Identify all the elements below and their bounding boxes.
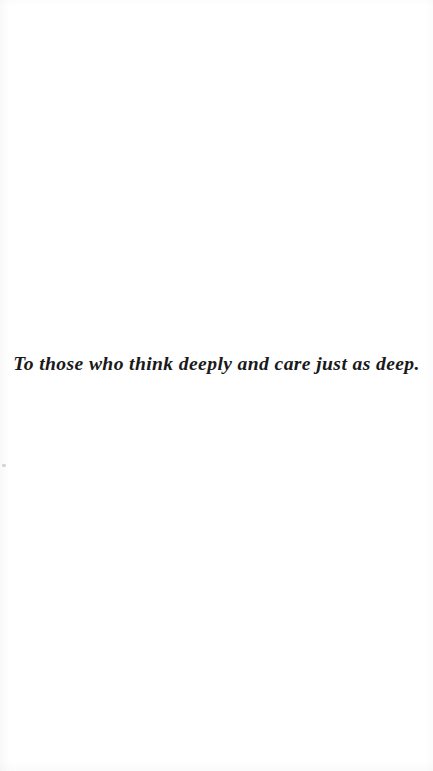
scan-speck-artifact xyxy=(2,464,6,467)
scan-edge-left xyxy=(0,0,10,771)
scan-edge-right xyxy=(425,0,433,771)
scan-edge-bottom xyxy=(0,761,433,771)
dedication-block: To those who think deeply and care just … xyxy=(0,352,433,376)
dedication-text: To those who think deeply and care just … xyxy=(13,352,420,376)
dedication-page: To those who think deeply and care just … xyxy=(0,0,433,771)
scan-edge-top xyxy=(0,0,433,6)
